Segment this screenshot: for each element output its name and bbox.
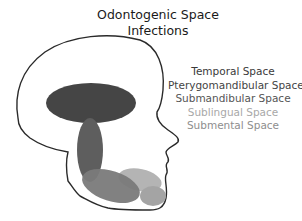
submental-space-region (140, 186, 166, 206)
temporal-space-region (46, 83, 136, 123)
title-line-1: Odontogenic Space (88, 7, 228, 23)
diagram-title: Odontogenic Space Infections (88, 7, 228, 39)
legend: Temporal Space Pterygomandibular Space S… (168, 65, 298, 133)
title-line-2: Infections (88, 23, 228, 39)
legend-item-sublingual: Sublingual Space (168, 106, 298, 120)
legend-item-pterygomandibular: Pterygomandibular Space (168, 79, 298, 93)
legend-item-temporal: Temporal Space (168, 65, 298, 79)
legend-item-submandibular: Submandibular Space (168, 92, 298, 106)
legend-item-submental: Submental Space (168, 119, 298, 133)
